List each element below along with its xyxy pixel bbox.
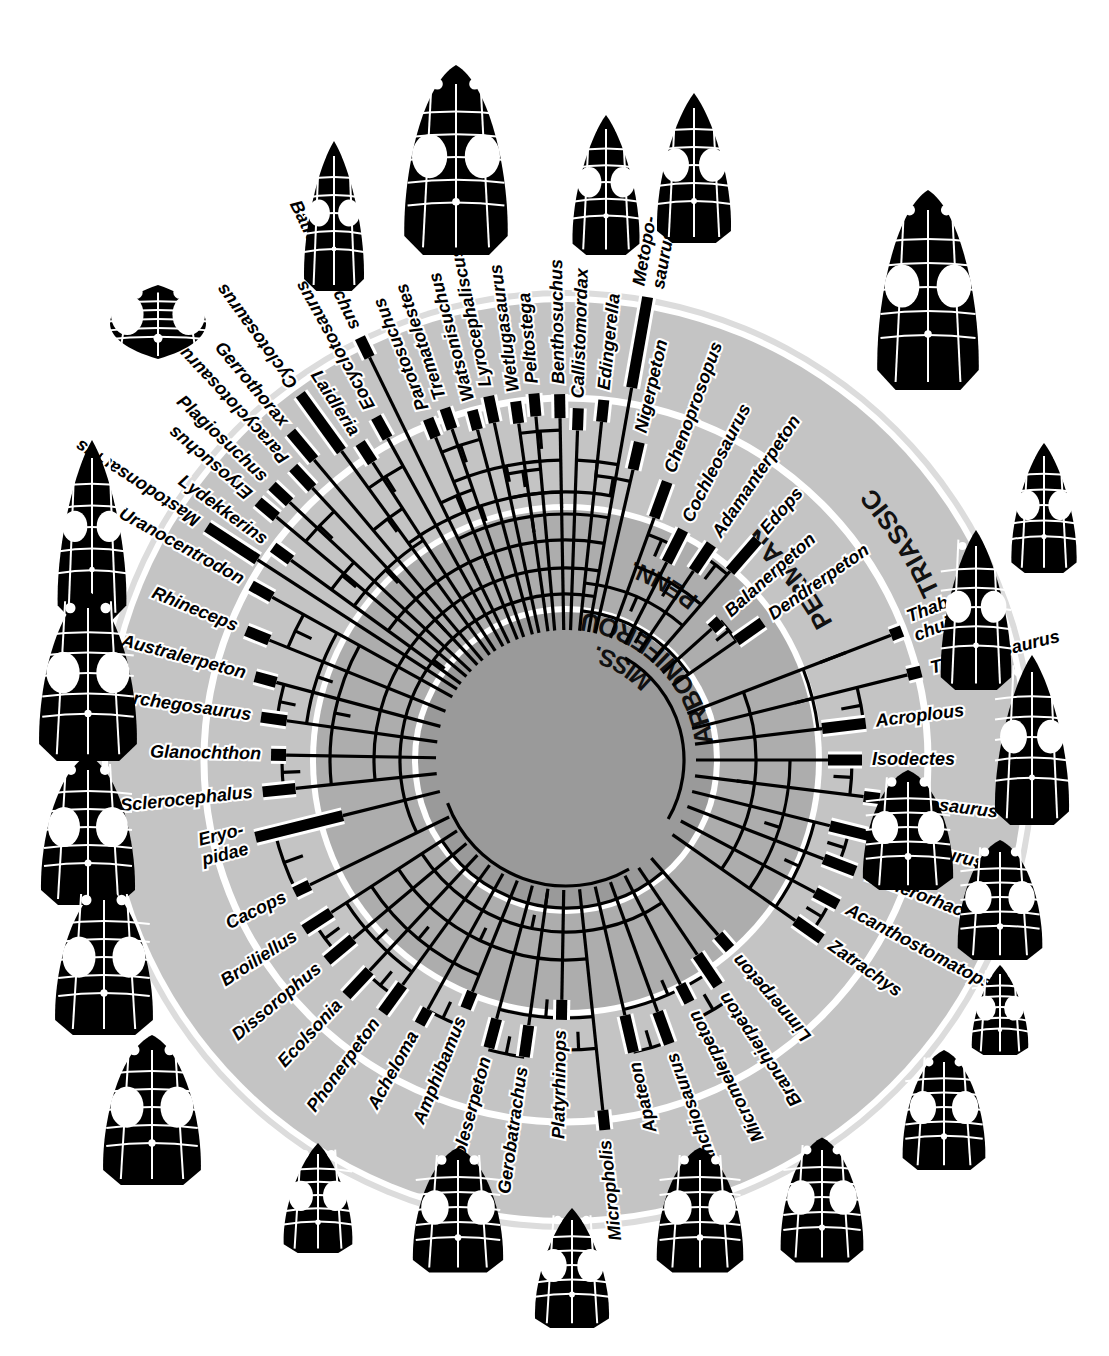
range-bar-thabanchuia [891,631,902,635]
skull-orbit-right [699,148,726,182]
skull-pineal-foramen [154,334,163,343]
skull-orbit-left [111,1086,144,1127]
skull-naris-left [432,79,443,90]
skull-pineal-foramen [1041,534,1046,539]
skull-orbit-left [577,167,601,197]
skull-orbit-right [1037,720,1064,754]
skull-pineal-foramen [455,1234,462,1241]
skull-pineal-foramen [315,1219,320,1224]
skull-naris-left [65,603,75,613]
skull-orbit-left [540,1249,566,1282]
range-bar-parotosuchus [428,419,435,438]
branch-spoke [282,772,300,773]
skull-orbit-right [708,1190,736,1224]
skull-naris-right [1011,848,1020,857]
skull-orbit-left [111,294,144,335]
range-bar-gerobatrachus [524,1025,528,1057]
skull-naris-left [301,1150,309,1158]
skull-naris-right [469,79,480,90]
range-bar-balanerpeton [712,621,721,629]
skull-orbit-right [465,134,500,178]
skull-naris-right [582,1216,590,1224]
range-bar-doleserpeton [489,1019,497,1048]
taxon-label-platyrhinops: PlatyrhinopsPlatyrhinops [548,1030,570,1139]
skull-naris-right [173,286,186,299]
skull-naris-left [554,1216,562,1224]
branch-spoke [540,431,541,449]
skull-naris-right [1053,452,1060,459]
skull-naris-left [803,1146,812,1155]
skull-pineal-foramen [819,1224,825,1230]
skull-orbit-right [96,652,129,694]
skull-naris-right [833,1146,842,1155]
skull-naris-right [101,454,109,462]
skull-naris-left [81,895,91,905]
skull-orbit-left [664,1190,692,1224]
skull-orbit-left [1000,720,1027,754]
skull-orbit-left [421,1190,449,1224]
skull-orbit-left [885,264,920,307]
skull-naris-right [986,542,994,550]
skull-orbit-right [338,199,360,226]
skull-pineal-foramen [998,1028,1002,1032]
skull-orbit-left [48,807,80,847]
skull-orbit-right [160,1086,193,1127]
taxon-label-benthosuchus: BenthosuchusBenthosuchus [546,259,568,384]
skull-orbit-left [872,811,898,844]
range-bar-callistomordax [578,408,579,430]
skull-pineal-foramen [997,923,1003,929]
phylogeny-figure: MISS.PENN.CARBONIFEROUSPERMIANTRIASSIC M… [0,0,1109,1356]
skull-pineal-foramen [941,1133,947,1139]
skull-pineal-foramen [100,989,107,996]
skull-naris-left [319,153,326,160]
skull-orbit-right [112,936,145,977]
range-bar-peltostega [534,393,536,416]
skull-pineal-foramen [569,1291,575,1297]
skull-naris-left [130,286,143,299]
skull-naris-left [925,1058,934,1067]
branch-spoke [532,516,534,532]
skull-pineal-foramen [1029,774,1035,780]
skull-pineal-foramen [148,1139,155,1146]
taxon-label-line: Benthosuchus [546,259,568,384]
skull-pineal-foramen [924,330,932,338]
skull-orbit-left [63,936,96,977]
range-bar-micropholis [603,1110,605,1130]
skull-naris-right [342,153,349,160]
range-bar-lyrocephaliscus [489,396,495,422]
branch-spoke [545,893,547,907]
skull-naris-right [327,1150,335,1158]
skull-naris-right [920,777,930,787]
skull-orbit-left [976,996,996,1021]
skull-orbit-left [965,881,991,914]
skull-orbit-left [412,134,447,178]
skull-orbit-right [952,1091,978,1124]
skull-pineal-foramen [85,860,92,867]
range-bar-dvinosaurus [864,797,880,799]
skull-naris-left [680,1155,689,1164]
skull-naris-right [1008,971,1014,977]
range-bar-amphibamus [466,992,473,1009]
skull-naris-right [704,104,712,112]
skull-naris-left [980,848,989,857]
skull-naris-left [75,454,83,462]
skull-orbit-left [1016,491,1040,521]
skull-orbit-right [1004,996,1024,1021]
skull-pineal-foramen [973,642,979,648]
skull-naris-right [100,603,110,613]
skull-naris-left [129,1045,139,1055]
skull-orbit-left [289,1181,313,1211]
skull-naris-right [955,1058,964,1067]
skull-orbit-right [1048,491,1072,521]
range-bar-tupilakosaurus [908,671,922,674]
skull-orbit-right [981,591,1007,623]
range-bar-acheloma [420,1009,428,1024]
taxon-label-line: Glanochthon [150,741,261,763]
skull-naris-left [887,777,897,787]
range-bar-archegosaurus [261,717,287,721]
skull-orbit-right [97,511,122,542]
range-bar-nigerpeton [633,442,639,469]
skull-naris-left [958,542,966,550]
skull-naris-right [100,765,110,775]
range-bar-edingerella [602,400,604,422]
